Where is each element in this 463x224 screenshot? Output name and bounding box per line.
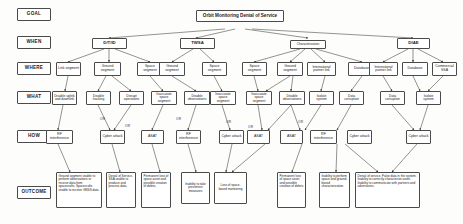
how-node-asat-3[interactable]: ASAT	[280, 130, 303, 144]
what-node-disable-tracking-1[interactable]: Disable tracking	[86, 91, 111, 105]
outcome-node-4[interactable]: Inability to take preventive measures	[181, 172, 210, 204]
what-node-inaccurate-space-segment-2[interactable]: Inaccurate space segment	[210, 91, 236, 105]
outcome-node-5[interactable]: Loss of space-based monitoring	[214, 172, 247, 204]
what-node-inaccurate-space-segment-1[interactable]: Inaccurate space segment	[151, 91, 177, 105]
row-label-when: WHEN	[17, 36, 51, 49]
how-node-cyber-attack-4[interactable]: Cyber attack	[406, 130, 431, 144]
outcome-node-2[interactable]: Denial of Service. SSA unable to produce…	[106, 172, 136, 208]
outcome-node-8[interactable]: Denial of service. False data in the sys…	[355, 172, 420, 208]
how-node-asat-1[interactable]: ASAT	[141, 130, 164, 144]
where-node-link-segment[interactable]: Link segment	[56, 62, 81, 76]
what-node-disable-observations-2[interactable]: Disable observations	[279, 91, 305, 105]
what-node-isolate-system-1[interactable]: Isolate system	[309, 91, 334, 105]
how-node-cyber-attack-3[interactable]: Cyber attack	[347, 130, 372, 144]
gate-or-2: OR	[125, 124, 130, 128]
what-node-disable-observations-1[interactable]: Disable observations	[184, 91, 210, 105]
gate-or-4: OR	[226, 120, 231, 124]
where-node-ground-segment-2[interactable]: Ground segment	[159, 62, 185, 76]
row-label-what: WHAT	[17, 91, 51, 104]
when-node-twsa[interactable]: TWSA	[180, 38, 215, 49]
row-label-where: WHERE	[17, 62, 51, 75]
how-node-cyber-attack-1[interactable]: Cyber attack	[100, 130, 125, 144]
when-node-diae[interactable]: DIAE	[397, 38, 430, 49]
where-node-space-segment-2[interactable]: Space segment	[202, 62, 227, 76]
attack-tree-diagram: GOAL WHEN WHERE WHAT HOW OUTCOME Orbit M…	[0, 0, 463, 224]
goal-node[interactable]: Orbit Monitoring Denial of Service	[196, 10, 284, 22]
where-node-commercial-ssa[interactable]: Commercial SSA	[432, 62, 457, 76]
where-node-ground-segment-3[interactable]: Ground segment	[277, 62, 303, 76]
gate-or-1: OR	[100, 117, 105, 121]
what-node-disrupt-operations[interactable]: Disrupt operations	[119, 91, 144, 105]
what-node-data-corruption-2[interactable]: Data corruption	[380, 91, 405, 105]
outcome-node-1[interactable]: Ground segment unable to perform observa…	[56, 172, 102, 208]
when-node-characterization[interactable]: Characterization	[290, 40, 326, 49]
outcome-node-3[interactable]: Permanent loss of space asset and possib…	[141, 172, 171, 208]
how-node-rf-interference-1[interactable]: RF interference	[46, 130, 73, 144]
what-node-inaccurate-space-segment-3[interactable]: Inaccurate space segment	[246, 91, 272, 105]
row-label-goal: GOAL	[17, 8, 51, 21]
where-node-database-2[interactable]: Database	[402, 62, 428, 76]
where-node-intl-partner-link-2[interactable]: International partner link	[369, 62, 398, 76]
gate-or-6: OR	[248, 125, 253, 129]
where-node-intl-partner-link-1[interactable]: International partner link	[307, 62, 336, 76]
what-node-data-corruption-1[interactable]: Data corruption	[339, 91, 364, 105]
how-node-cyber-attack-2[interactable]: Cyber attack	[219, 130, 244, 144]
what-node-disable-uplink-downlink[interactable]: Disable uplink and downlink	[52, 91, 77, 105]
how-node-rf-interference-3[interactable]: RF interference	[310, 130, 337, 144]
how-node-asat-2[interactable]: ASAT	[247, 130, 270, 144]
gate-or-5: OR	[298, 120, 303, 124]
what-node-isolate-system-2[interactable]: Isolate system	[416, 91, 441, 105]
row-label-outcome: OUTCOME	[17, 186, 51, 199]
outcome-node-6[interactable]: Permanent loss of space asset and possib…	[277, 172, 306, 208]
outcome-node-7[interactable]: Inability to perform space and ground-ba…	[319, 172, 350, 208]
when-node-dtid[interactable]: D/T/ID	[92, 38, 127, 49]
gate-or-3: OR	[176, 117, 181, 121]
how-node-rf-interference-2[interactable]: RF interference	[176, 130, 201, 144]
where-node-space-segment-3[interactable]: Space segment	[242, 62, 267, 76]
where-node-ground-segment-1[interactable]: Ground segment	[94, 62, 121, 76]
